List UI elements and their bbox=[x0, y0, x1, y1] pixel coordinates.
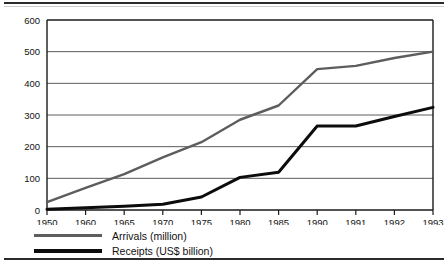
x-tick-label-1965: 1965 bbox=[114, 217, 135, 225]
line-chart-svg: 0100200300400500600 19501960196519701975… bbox=[0, 10, 448, 225]
y-tick-label-200: 200 bbox=[24, 141, 40, 152]
x-tick-label-1990: 1990 bbox=[307, 217, 328, 225]
series-line-arrivals bbox=[47, 52, 433, 202]
line-chart-plot-area: 0100200300400500600 19501960196519701975… bbox=[0, 10, 448, 225]
x-tick-label-1985: 1985 bbox=[268, 217, 289, 225]
series-lines-group bbox=[47, 52, 433, 210]
x-tick-label-1960: 1960 bbox=[75, 217, 96, 225]
x-tick-label-1975: 1975 bbox=[191, 217, 212, 225]
series-line-receipts bbox=[47, 107, 433, 209]
y-tick-label-400: 400 bbox=[24, 78, 40, 89]
top-rule-divider bbox=[4, 2, 444, 4]
arrivals-line-swatch-icon bbox=[34, 234, 102, 237]
legend-label-receipts: Receipts (US$ billion) bbox=[112, 245, 213, 257]
y-tick-label-100: 100 bbox=[24, 173, 40, 184]
bottom-rule-divider bbox=[4, 258, 444, 260]
legend-item-receipts: Receipts (US$ billion) bbox=[34, 243, 334, 258]
y-axis-tick-labels-group: 0100200300400500600 bbox=[24, 15, 40, 216]
y-tick-label-300: 300 bbox=[24, 110, 40, 121]
x-tick-marks-group bbox=[47, 210, 433, 215]
top-rule-hairline bbox=[4, 6, 444, 7]
x-tick-label-1993: 1993 bbox=[422, 217, 443, 225]
receipts-line-swatch-icon bbox=[34, 249, 102, 253]
legend-item-arrivals: Arrivals (million) bbox=[34, 228, 334, 243]
chart-legend: Arrivals (million) Receipts (US$ billion… bbox=[34, 228, 334, 258]
y-tick-label-0: 0 bbox=[35, 205, 40, 216]
y-tick-label-500: 500 bbox=[24, 46, 40, 57]
x-tick-label-1970: 1970 bbox=[152, 217, 173, 225]
chart-figure: 0100200300400500600 19501960196519701975… bbox=[0, 0, 448, 270]
x-tick-label-1980: 1980 bbox=[229, 217, 250, 225]
x-tick-label-1992: 1992 bbox=[384, 217, 405, 225]
legend-label-arrivals: Arrivals (million) bbox=[112, 230, 187, 242]
x-tick-label-1950: 1950 bbox=[36, 217, 57, 225]
y-tick-label-600: 600 bbox=[24, 15, 40, 26]
x-axis-tick-labels-group: 1950196019651970197519801985199019911992… bbox=[36, 217, 443, 225]
x-tick-label-1991: 1991 bbox=[345, 217, 366, 225]
